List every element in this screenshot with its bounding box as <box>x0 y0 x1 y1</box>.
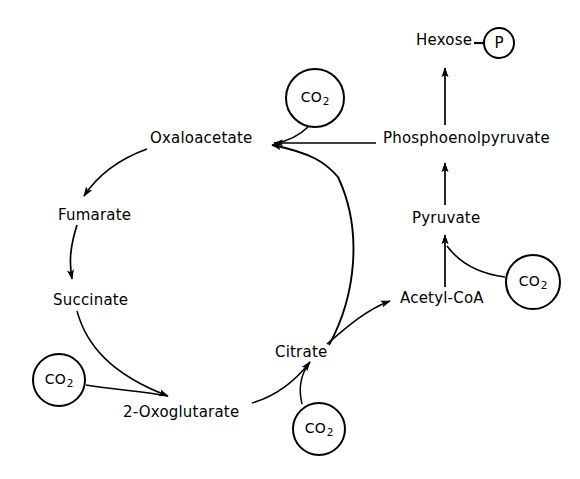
co2-label: CO2 <box>519 274 547 288</box>
phosphate-label: P <box>494 36 503 51</box>
metabolite-fumarate: Fumarate <box>58 208 131 223</box>
co2-label: CO2 <box>305 421 333 435</box>
co2-label: CO2 <box>45 372 73 386</box>
cofactor-line-co2-citrate <box>300 362 310 404</box>
pathway-diagram: Oxaloacetate Fumarate Succinate 2-Oxoglu… <box>0 0 580 479</box>
arrow-citrate-to-oxaloacetate <box>272 145 353 345</box>
metabolite-hexose: Hexose <box>416 33 472 48</box>
metabolite-acetyl-coa: Acetyl-CoA <box>400 291 484 306</box>
metabolite-2-oxoglutarate: 2-Oxoglutarate <box>123 405 239 420</box>
co2-bubble-citrate: CO2 <box>292 402 346 456</box>
phosphate-bubble: P <box>483 27 515 59</box>
arrow-succinate-to-oxoglutarate <box>77 311 168 396</box>
pathway-arrows-layer <box>0 0 580 479</box>
co2-bubble-oxoglutarate: CO2 <box>32 353 86 407</box>
arrow-oxaloacetate-to-fumarate <box>84 149 147 196</box>
co2-bubble-pyruvate: CO2 <box>505 254 561 310</box>
arrow-citrate-to-acetylcoa <box>327 301 390 344</box>
arrow-fumarate-to-succinate <box>70 225 77 279</box>
metabolite-succinate: Succinate <box>53 293 128 308</box>
metabolite-phosphoenolpyruvate: Phosphoenolpyruvate <box>383 131 550 146</box>
metabolite-oxaloacetate: Oxaloacetate <box>150 131 252 146</box>
metabolite-citrate: Citrate <box>275 345 327 360</box>
cofactor-line-co2-pyruvate <box>447 246 505 277</box>
metabolite-pyruvate: Pyruvate <box>412 211 480 226</box>
cofactor-line-co2-oxaloacetate <box>274 127 308 144</box>
co2-bubble-oxaloacetate: CO2 <box>285 68 345 128</box>
co2-label: CO2 <box>301 90 329 104</box>
